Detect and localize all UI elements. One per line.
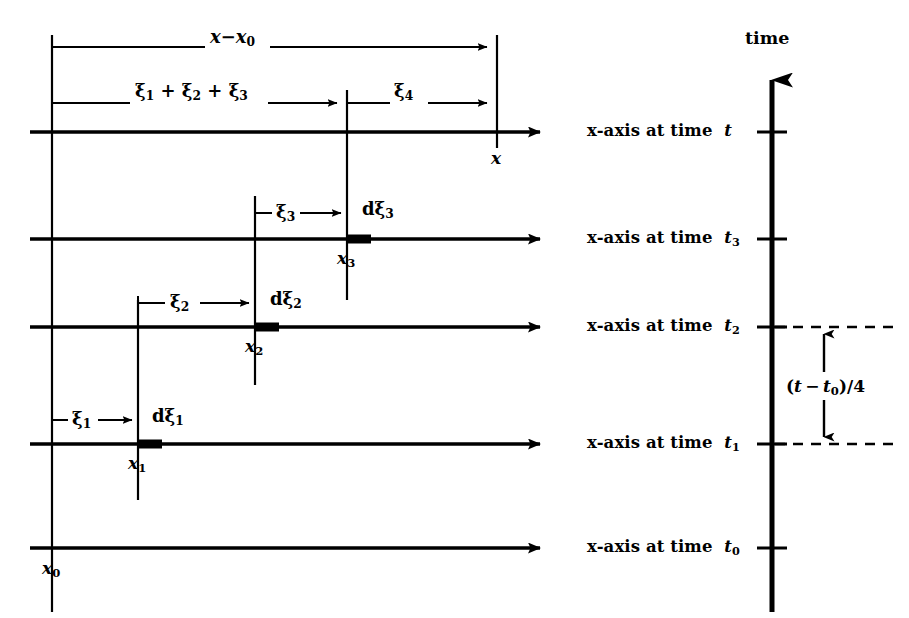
- row-label-t: x-axis at time t: [587, 123, 732, 141]
- bracket-label-x-minus-x0: x−x0: [210, 28, 255, 48]
- row-label-t2: x-axis at time t2: [587, 318, 740, 336]
- xi-3-measure: [255, 206, 341, 221]
- row-label-t0: x-axis at time t0: [587, 539, 740, 557]
- x-marker-label-x: x: [491, 150, 501, 169]
- d-xi-3-label: dξ3: [362, 200, 394, 220]
- bracket-label-xi4: ξ4: [394, 82, 413, 102]
- x-marker-label-x1: x1: [128, 455, 146, 474]
- time-axis: [757, 80, 787, 612]
- spacetime-diagram: x−x0 ξ1 + ξ2 + ξ3 ξ4 ξ3 ξ2 ξ1 dξ3 dξ2 dξ…: [0, 0, 909, 618]
- xi-3-label: ξ3: [276, 203, 295, 223]
- x-marker-label-x3: x3: [337, 250, 355, 269]
- row-label-t3: x-axis at time t3: [587, 230, 740, 248]
- d-xi-2-label: dξ2: [270, 290, 302, 310]
- time-axis-title: time: [745, 30, 789, 48]
- xi-1-label: ξ1: [72, 410, 91, 430]
- row-label-t1: x-axis at time t1: [587, 435, 740, 453]
- x-axes: [30, 132, 540, 548]
- xi-1-measure: [52, 413, 132, 428]
- bracket-label-xi-sum: ξ1 + ξ2 + ξ3: [135, 82, 248, 102]
- interval-label: (t − t0)/4: [786, 378, 865, 397]
- xi-2-measure: [138, 296, 249, 311]
- xi-2-label: ξ2: [170, 293, 189, 313]
- x-marker-label-x0: x0: [42, 560, 60, 579]
- d-xi-1-label: dξ1: [152, 407, 184, 427]
- x-marker-label-x2: x2: [245, 338, 263, 357]
